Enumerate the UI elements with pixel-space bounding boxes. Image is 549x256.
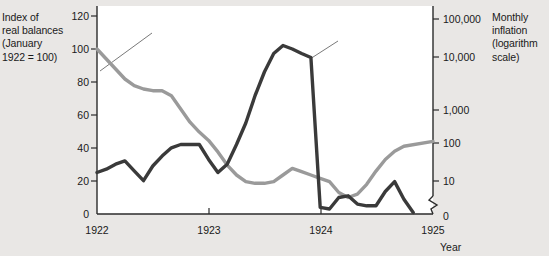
right-tick-marks xyxy=(433,19,439,181)
chart-figure: Index of real balances (January 1922 = 1… xyxy=(0,0,549,256)
chart-plot xyxy=(0,0,549,256)
left-tick-marks xyxy=(91,16,97,181)
